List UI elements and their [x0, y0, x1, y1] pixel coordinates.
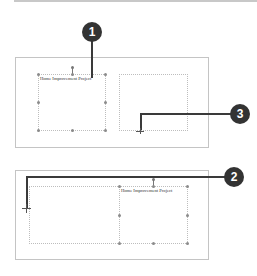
- text-box-label: Home Improvement Project: [40, 76, 91, 82]
- callout-2: 2: [224, 167, 244, 187]
- resize-handle-mr[interactable]: [186, 214, 189, 217]
- text-box-top[interactable]: [38, 74, 106, 131]
- crosshair-icon-v: [26, 204, 27, 213]
- top-divider: [14, 0, 257, 2]
- resize-handle-tr[interactable]: [104, 73, 107, 76]
- drag-outline-box: [119, 74, 188, 131]
- resize-handle-br[interactable]: [186, 242, 189, 245]
- resize-cursor-icon-v: [140, 128, 141, 134]
- resize-handle-bl[interactable]: [118, 242, 121, 245]
- text-box-label: Home Improvement Project: [121, 188, 172, 194]
- resize-handle-bm[interactable]: [71, 129, 74, 132]
- text-box-bottom[interactable]: [119, 186, 188, 244]
- resize-handle-ml[interactable]: [118, 214, 121, 217]
- rotate-dot-bottom[interactable]: [152, 178, 155, 181]
- resize-handle-bm[interactable]: [152, 242, 155, 245]
- resize-handle-bl[interactable]: [37, 129, 40, 132]
- leader-line-1: [91, 40, 93, 78]
- leader-line-2-h: [26, 176, 226, 178]
- callout-1: 1: [82, 22, 102, 42]
- leader-line-3-h: [140, 113, 232, 115]
- resize-handle-ml[interactable]: [37, 101, 40, 104]
- rotate-dot[interactable]: [71, 66, 74, 69]
- resize-handle-mr[interactable]: [104, 101, 107, 104]
- resize-handle-br[interactable]: [104, 129, 107, 132]
- callout-3: 3: [230, 104, 250, 124]
- resize-handle-tr[interactable]: [186, 185, 189, 188]
